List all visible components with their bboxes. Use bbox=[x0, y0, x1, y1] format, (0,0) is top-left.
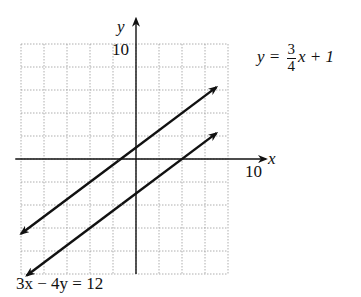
y-axis-label: y bbox=[117, 18, 125, 35]
series-line-2 bbox=[27, 204, 122, 275]
y-tick-label: 10 bbox=[112, 41, 129, 58]
line2-equation-label: 3x − 4y = 12 bbox=[16, 275, 103, 292]
lines bbox=[21, 87, 217, 275]
x-axis-label: x bbox=[268, 150, 276, 167]
fraction: 34 bbox=[287, 42, 297, 75]
x-tick-label: 10 bbox=[245, 163, 262, 180]
series-line-1 bbox=[119, 87, 217, 160]
series-line-1 bbox=[21, 160, 119, 233]
line1-equation-label: y = 34x + 1 bbox=[257, 42, 334, 75]
